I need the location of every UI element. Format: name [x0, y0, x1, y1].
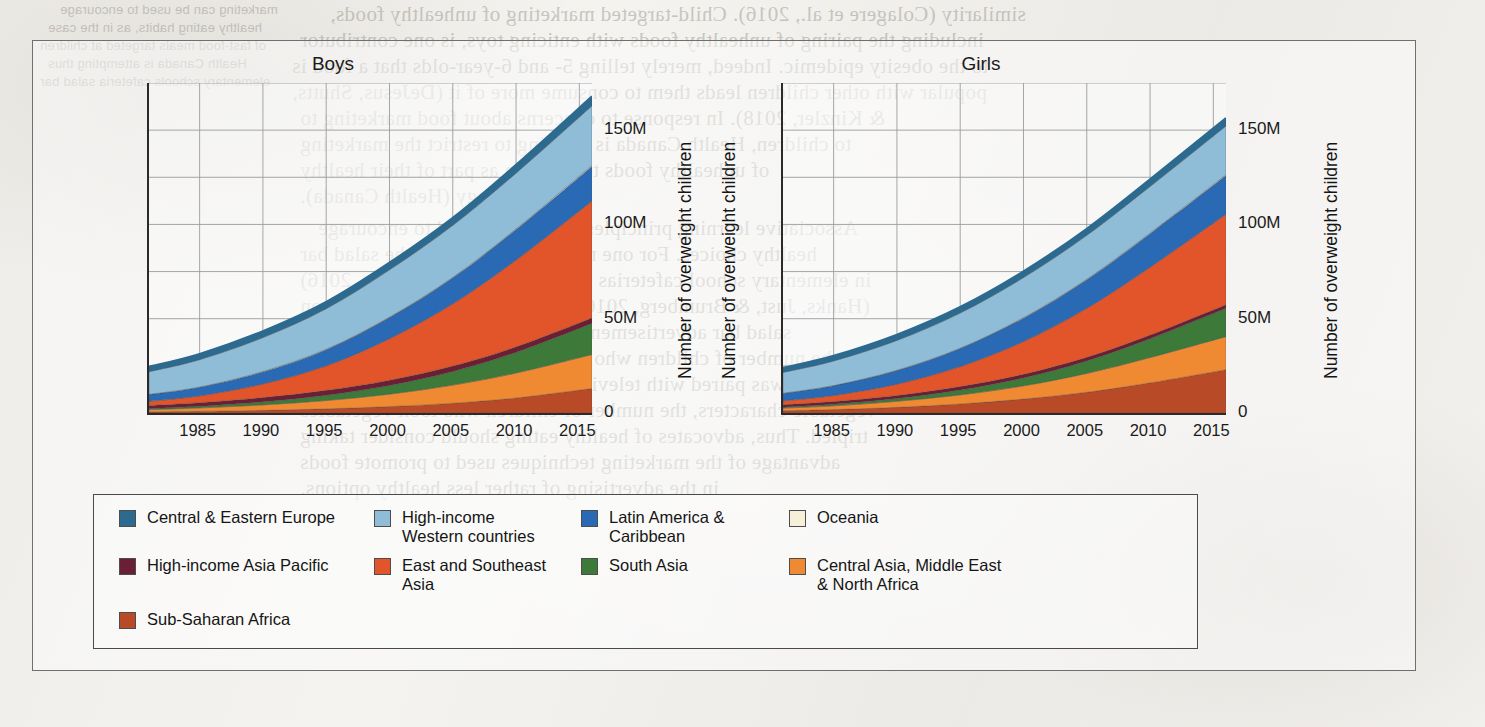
chart-title-girls: Girls	[657, 53, 1305, 75]
y-axis-tick-label: 0	[604, 402, 613, 422]
legend-item: Central & Eastern Europe	[119, 508, 374, 556]
legend-color-swatch	[374, 558, 391, 575]
legend-item: High-income Asia Pacific	[119, 556, 374, 610]
legend-item-label: South Asia	[609, 556, 688, 575]
x-axis-tick-label: 1990	[243, 421, 280, 440]
x-axis-tick-label: 1990	[877, 421, 914, 440]
legend-color-swatch	[581, 558, 598, 575]
y-axis-tick-label: 50M	[1238, 308, 1271, 328]
y-axis-tick-label: 100M	[1238, 213, 1281, 233]
x-axis-tick-label: 1995	[940, 421, 977, 440]
x-axis-tick-label: 2005	[432, 421, 469, 440]
chart-panel-boys: Boys 050M100M150M 1985199019952000200520…	[51, 49, 691, 469]
y-axis-tick-label: 0	[1238, 402, 1247, 422]
legend-color-swatch	[119, 558, 136, 575]
y-axis-tick-labels-boys: 050M100M150M	[596, 83, 666, 413]
bleed-text-line: healthy eating habits, as in the case	[48, 20, 262, 35]
figure-frame: Boys 050M100M150M 1985199019952000200520…	[32, 40, 1416, 671]
y-axis-title-girls-right: Number of overweight children	[1321, 142, 1342, 379]
legend-color-swatch	[789, 558, 806, 575]
x-axis-tick-label: 2000	[369, 421, 406, 440]
legend-item-label: Sub-Saharan Africa	[147, 610, 290, 629]
plot-area-boys	[147, 83, 592, 415]
bleed-text-line: marketing can be used to encourage	[60, 2, 278, 17]
chart-title-boys: Boys	[13, 53, 653, 75]
chart-legend: Central & Eastern EuropeHigh-incomeWeste…	[93, 494, 1198, 649]
legend-color-swatch	[119, 510, 136, 527]
legend-item: High-incomeWestern countries	[374, 508, 581, 556]
y-axis-title-boys: Number of overweight children	[675, 142, 696, 379]
chart-svg	[783, 83, 1226, 413]
legend-item: Central Asia, Middle East& North Africa	[789, 556, 1089, 610]
legend-item: South Asia	[581, 556, 789, 610]
legend-item: Oceania	[789, 508, 1089, 556]
x-axis-tick-label: 1985	[813, 421, 850, 440]
legend-item-label: High-incomeWestern countries	[402, 508, 535, 547]
x-axis-tick-label: 2015	[1193, 421, 1230, 440]
legend-color-swatch	[119, 612, 136, 629]
legend-item: Latin America &Caribbean	[581, 508, 789, 556]
x-axis-tick-label: 2010	[1130, 421, 1167, 440]
stacked-area-bands	[783, 118, 1226, 413]
plot-wrapper-girls: 050M100M150M 198519901995200020052010201…	[781, 83, 1226, 415]
legend-color-swatch	[581, 510, 598, 527]
x-axis-tick-label: 2010	[496, 421, 533, 440]
x-axis-tick-label: 2015	[559, 421, 596, 440]
y-axis-tick-label: 150M	[1238, 119, 1281, 139]
x-axis-tick-labels-girls: 1985199019952000200520102015	[781, 417, 1224, 445]
legend-item-label: High-income Asia Pacific	[147, 556, 329, 575]
legend-item-label: Central Asia, Middle East& North Africa	[817, 556, 1001, 595]
legend-item-label: Central & Eastern Europe	[147, 508, 335, 527]
legend-color-swatch	[374, 510, 391, 527]
legend-color-swatch	[789, 510, 806, 527]
x-axis-tick-labels-boys: 1985199019952000200520102015	[147, 417, 590, 445]
stacked-area-bands	[149, 96, 592, 413]
x-axis-tick-label: 2005	[1066, 421, 1103, 440]
legend-grid: Central & Eastern EuropeHigh-incomeWeste…	[94, 495, 1197, 648]
x-axis-tick-label: 1995	[306, 421, 343, 440]
bleed-text-line: similarity (Colagere et al., 2016). Chil…	[330, 2, 1026, 27]
plot-wrapper-boys: 050M100M150M 198519901995200020052010201…	[147, 83, 592, 415]
y-axis-tick-label: 100M	[604, 213, 647, 233]
x-axis-tick-label: 1985	[179, 421, 216, 440]
legend-item: East and SoutheastAsia	[374, 556, 581, 610]
legend-item-label: Latin America &Caribbean	[609, 508, 725, 547]
chart-panel-girls: Girls 050M100M150M 198519901995200020052…	[709, 49, 1357, 469]
y-axis-title-girls-left: Number of overweight children	[719, 142, 740, 379]
x-axis-tick-label: 2000	[1003, 421, 1040, 440]
y-axis-tick-label: 50M	[604, 308, 637, 328]
chart-svg	[149, 83, 592, 413]
plot-area-girls	[781, 83, 1226, 415]
legend-item-label: Oceania	[817, 508, 878, 527]
legend-item: Sub-Saharan Africa	[119, 610, 374, 656]
y-axis-tick-labels-girls: 050M100M150M	[1230, 83, 1300, 413]
legend-item-label: East and SoutheastAsia	[402, 556, 546, 595]
y-axis-tick-label: 150M	[604, 119, 647, 139]
